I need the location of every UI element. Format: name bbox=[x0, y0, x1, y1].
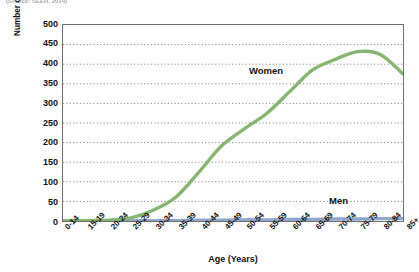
y-axis-tick-label: 0 bbox=[30, 218, 58, 227]
y-axis-tick-label: 450 bbox=[30, 39, 58, 48]
y-axis-tick-labels: 500450400350300250200150100500 bbox=[30, 24, 58, 222]
x-axis-title: Age (Years) bbox=[62, 254, 404, 264]
y-axis-tick-label: 250 bbox=[30, 119, 58, 128]
y-axis-tick-label: 50 bbox=[30, 198, 58, 207]
y-axis-tick-label: 100 bbox=[30, 178, 58, 187]
y-axis-tick-label: 300 bbox=[30, 99, 58, 108]
series-label-men: Men bbox=[329, 195, 348, 206]
x-axis-tick-labels: 0-1415-1920-2425-2930-3435-3940-4445-495… bbox=[62, 222, 404, 256]
y-axis-tick-label: 150 bbox=[30, 158, 58, 167]
series-label-women: Women bbox=[249, 65, 283, 76]
y-axis-tick-label: 200 bbox=[30, 138, 58, 147]
plot-svg bbox=[63, 25, 403, 221]
x-axis-tick-label: 85+ bbox=[405, 215, 419, 231]
chart-figure: (Source: SEER, 2014) Number of Breast Ca… bbox=[0, 0, 419, 272]
series-line-women bbox=[63, 51, 403, 221]
y-axis-tick-label: 350 bbox=[30, 79, 58, 88]
plot-area: Women Men bbox=[62, 24, 404, 222]
y-axis-tick-label: 500 bbox=[30, 20, 58, 29]
y-axis-tick-label: 400 bbox=[30, 59, 58, 68]
